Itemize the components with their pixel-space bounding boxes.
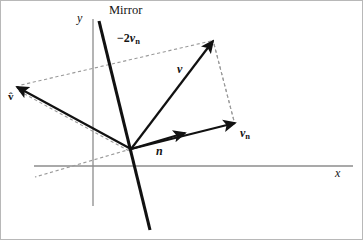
axes-group — [34, 19, 353, 206]
v-tip-to-reflected-tip — [21, 41, 211, 85]
mirror-line — [99, 21, 150, 230]
v-tip-to-vn-tip-arrow — [214, 44, 234, 121]
mirror-label: Mirror — [109, 4, 142, 17]
normal-component-subscript: n — [245, 131, 250, 141]
origin-to-lower-left — [35, 149, 131, 177]
minus-two-vn-prefix: −2 — [117, 31, 130, 45]
x-axis-label: x — [335, 167, 340, 179]
minus-two-vn-subscript: n — [135, 36, 140, 46]
normal-vector-label: n — [156, 145, 163, 157]
normal-vector-symbol: n — [156, 144, 163, 158]
reflected-tip-to-lower-left — [19, 91, 129, 151]
incident-vector-label: v — [177, 63, 182, 75]
reflected-vector-label: v̂ — [8, 91, 14, 102]
reflected-vector — [17, 87, 131, 149]
vector-reflection-figure: y x Mirror −2vn v n vn v̂ — [0, 0, 363, 240]
figure-canvas — [1, 1, 363, 240]
incident-vector-symbol: v — [177, 62, 182, 76]
y-axis-label: y — [77, 12, 82, 24]
dashed-construction-lines — [19, 41, 234, 177]
minus-two-vn-label: −2vn — [117, 32, 140, 45]
normal-component-vector-label: vn — [240, 127, 250, 140]
